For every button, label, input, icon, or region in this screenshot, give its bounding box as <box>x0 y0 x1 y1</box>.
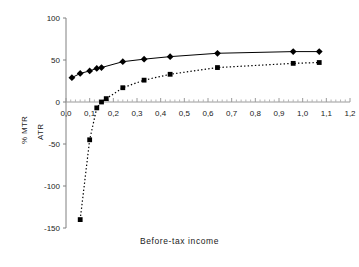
data-point-atr <box>120 85 125 90</box>
x-axis-tick-label: 0,2 <box>108 109 120 118</box>
x-axis-title: Before-tax income <box>0 236 359 246</box>
y-axis-tick-label: 0 <box>56 98 61 107</box>
y-axis-tick-label: 100 <box>47 14 61 23</box>
data-point-mtr <box>86 68 93 75</box>
data-point-mtr <box>77 70 84 77</box>
x-axis-tick-label: 0,1 <box>84 109 96 118</box>
data-point-atr <box>104 96 109 101</box>
data-point-atr <box>78 217 83 222</box>
data-point-atr <box>291 61 296 66</box>
x-axis-tick-label: 0,3 <box>131 109 143 118</box>
x-axis-tick-label: 1,1 <box>321 109 333 118</box>
data-point-mtr <box>69 74 76 81</box>
x-axis-tick-label: 0,4 <box>155 109 167 118</box>
data-point-atr <box>215 65 220 70</box>
data-point-mtr <box>290 48 297 55</box>
data-point-mtr <box>316 48 323 55</box>
data-point-atr <box>94 105 99 110</box>
data-point-atr <box>142 78 147 83</box>
data-point-mtr <box>141 56 148 63</box>
chart-figure: % MTR ATR 100500-50-100-1500,00,10,20,30… <box>0 0 359 267</box>
data-point-mtr <box>119 58 126 65</box>
data-point-mtr <box>167 53 174 60</box>
data-point-atr <box>99 100 104 105</box>
x-axis-tick-label: 1,0 <box>297 109 309 118</box>
x-axis-tick-label: 0,5 <box>179 109 191 118</box>
x-axis-tick-label: 0,8 <box>250 109 262 118</box>
data-point-atr <box>87 137 92 142</box>
data-point-atr <box>317 60 322 65</box>
y-axis-tick-label: -150 <box>44 224 61 233</box>
x-axis-tick-label: 0,7 <box>226 109 238 118</box>
series-line-atr <box>80 63 319 220</box>
y-axis-tick-label: -100 <box>44 182 61 191</box>
series-line-mtr <box>72 52 319 78</box>
data-point-mtr <box>98 64 105 71</box>
y-axis-tick-label: -50 <box>48 140 60 149</box>
data-point-mtr <box>214 50 221 57</box>
x-axis-tick-label: 0,6 <box>202 109 214 118</box>
x-axis-tick-label: 0,0 <box>60 109 72 118</box>
data-point-atr <box>168 72 173 77</box>
x-axis-tick-label: 1,2 <box>344 109 356 118</box>
plot-canvas: 100500-50-100-1500,00,10,20,30,40,50,60,… <box>0 0 359 267</box>
x-axis-tick-label: 0,9 <box>273 109 285 118</box>
y-axis-tick-label: 50 <box>51 56 60 65</box>
